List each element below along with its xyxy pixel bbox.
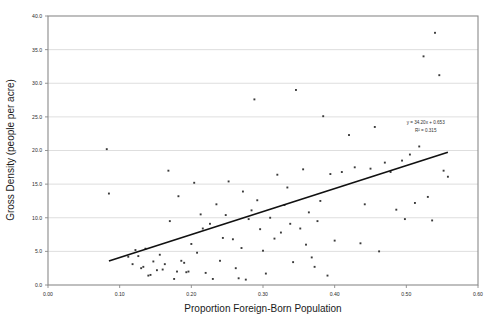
scatter-point <box>322 115 324 117</box>
scatter-point <box>127 256 129 258</box>
scatter-point <box>162 269 164 271</box>
scatter-point <box>256 199 258 201</box>
x-tick-label: 0.30 <box>258 291 268 297</box>
x-axis-title: Proportion Foreign-Born Population <box>184 303 341 314</box>
scatter-point <box>242 191 244 193</box>
scatter-point <box>311 256 313 258</box>
y-axis-title: Gross Density (people per acre) <box>5 79 16 221</box>
scatter-point <box>222 237 224 239</box>
scatter-point <box>196 252 198 254</box>
scatter-point <box>269 217 271 219</box>
scatter-point <box>193 182 195 184</box>
scatter-point <box>443 170 445 172</box>
scatter-point <box>152 261 154 263</box>
scatter-point <box>176 271 178 273</box>
scatter-point <box>108 193 110 195</box>
scatter-point <box>232 238 234 240</box>
scatter-point <box>248 218 250 220</box>
scatter-point <box>286 187 288 189</box>
scatter-point <box>185 271 187 273</box>
regression-equation: y = 34.20x + 0.653 <box>407 120 446 125</box>
scatter-point <box>378 250 380 252</box>
scatter-point <box>164 263 166 265</box>
scatter-point <box>276 174 278 176</box>
scatter-point <box>190 243 192 245</box>
scatter-point <box>299 228 301 230</box>
scatter-point <box>280 232 282 234</box>
scatter-point <box>305 244 307 246</box>
y-tick-label: 35.0 <box>32 47 42 53</box>
scatter-point <box>245 279 247 281</box>
scatter-point <box>212 278 214 280</box>
y-tick-label: 0.0 <box>35 282 42 288</box>
x-tick-label: 0.50 <box>401 291 411 297</box>
scatter-point <box>292 261 294 263</box>
y-tick-label: 30.0 <box>32 80 42 86</box>
scatter-point <box>251 209 253 211</box>
scatter-point <box>395 209 397 211</box>
scatter-point <box>423 55 425 57</box>
scatter-point <box>354 166 356 168</box>
scatter-point <box>364 203 366 205</box>
scatter-point <box>274 238 276 240</box>
scatter-point <box>259 228 261 230</box>
scatter-plot-figure: 0.05.010.015.020.025.030.035.040.0 0.000… <box>0 0 497 333</box>
y-tick-label: 5.0 <box>35 248 42 254</box>
x-tick-label: 0.60 <box>473 291 483 297</box>
scatter-point <box>150 274 152 276</box>
x-tick-label: 0.10 <box>115 291 125 297</box>
scatter-point <box>200 213 202 215</box>
scatter-point <box>438 74 440 76</box>
scatter-point <box>401 160 403 162</box>
scatter-point <box>241 247 243 249</box>
scatter-point <box>404 218 406 220</box>
scatter-point <box>169 220 171 222</box>
scatter-point <box>106 148 108 150</box>
x-tick-label: 0.40 <box>330 291 340 297</box>
scatter-point <box>360 242 362 244</box>
scatter-point <box>447 176 449 178</box>
scatter-point <box>334 240 336 242</box>
scatter-point <box>159 254 161 256</box>
r-squared: R² = 0.315 <box>415 128 437 133</box>
scatter-point <box>156 269 158 271</box>
scatter-point <box>374 126 376 128</box>
scatter-point <box>137 255 139 257</box>
y-tick-label: 40.0 <box>32 13 42 19</box>
scatter-point <box>317 220 319 222</box>
scatter-point <box>228 180 230 182</box>
scatter-point <box>434 32 436 34</box>
scatter-point <box>202 228 204 230</box>
y-tick-label: 15.0 <box>32 181 42 187</box>
scatter-point <box>319 200 321 202</box>
chart-canvas: 0.05.010.015.020.025.030.035.040.0 0.000… <box>0 0 497 333</box>
scatter-point <box>180 260 182 262</box>
scatter-point <box>167 170 169 172</box>
scatter-point <box>238 277 240 279</box>
y-tick-label: 25.0 <box>32 114 42 120</box>
scatter-point <box>188 271 190 273</box>
scatter-point <box>348 134 350 136</box>
scatter-point <box>140 267 142 269</box>
scatter-point <box>384 162 386 164</box>
scatter-point <box>327 275 329 277</box>
scatter-point <box>132 263 134 265</box>
scatter-point <box>235 267 237 269</box>
scatter-point <box>370 168 372 170</box>
scatter-point <box>418 146 420 148</box>
scatter-point <box>427 196 429 198</box>
y-tick-label: 10.0 <box>32 215 42 221</box>
scatter-point <box>409 154 411 156</box>
x-tick-label: 0.00 <box>43 291 53 297</box>
scatter-point <box>147 275 149 277</box>
scatter-point <box>253 98 255 100</box>
scatter-point <box>215 203 217 205</box>
scatter-point <box>173 278 175 280</box>
scatter-point <box>209 223 211 225</box>
scatter-point <box>341 171 343 173</box>
scatter-point <box>183 262 185 264</box>
scatter-point <box>265 273 267 275</box>
scatter-point <box>177 195 179 197</box>
scatter-point <box>308 211 310 213</box>
scatter-point <box>414 202 416 204</box>
